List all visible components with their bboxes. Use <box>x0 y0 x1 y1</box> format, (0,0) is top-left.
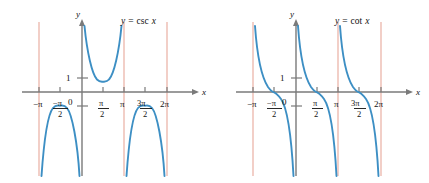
x-tick-label-2pi-csc: 2π <box>160 99 170 109</box>
x-tick-label-3pi-half-csc: 3π 2 <box>137 98 152 119</box>
x-tick-label-neg-pi-csc: −π <box>33 99 43 109</box>
y-axis-arrow-icon <box>293 19 299 26</box>
x-tick-label-neg-pi-half-cot: −π 2 <box>267 98 282 119</box>
csc-branch-0-to-pi <box>85 26 122 82</box>
fraction-denominator: 2 <box>58 109 62 119</box>
chart-title-cot: y=cotx <box>334 16 370 26</box>
chart-panel-csc: y=cscx x y 0 1 −π −π 2 π 2 π 3π <box>0 0 214 183</box>
x-tick-label-pi-half-cot: π 2 <box>312 98 323 119</box>
x-tick-label-pi-cot: π <box>334 99 339 109</box>
x-axis-label-csc: x <box>201 87 206 97</box>
y-axis-label-cot: y <box>289 9 294 19</box>
x-axis-arrow-icon <box>192 89 199 95</box>
origin-label-csc: 0 <box>68 97 73 107</box>
fraction-numerator: 3π <box>351 98 360 108</box>
fraction-numerator: −π <box>267 98 277 108</box>
origin-label-cot: 0 <box>282 97 287 107</box>
y-axis-label-csc: y <box>75 9 80 19</box>
fraction-denominator: 2 <box>143 109 147 119</box>
x-tick-label-2pi-cot: 2π <box>374 99 384 109</box>
chart-panel-cot: y=cotx x y 0 1 −π −π 2 π 2 π 3π 2 <box>214 0 428 183</box>
fraction-denominator: 2 <box>272 109 276 119</box>
x-tick-group-csc <box>39 87 167 92</box>
csc-plot: y=cscx x y 0 1 −π −π 2 π 2 π 3π <box>0 0 214 183</box>
trig-graph-figure: y=cscx x y 0 1 −π −π 2 π 2 π 3π <box>0 0 429 183</box>
x-tick-label-neg-pi-half-csc: −π 2 <box>53 98 68 119</box>
fraction-numerator: π <box>313 98 318 108</box>
x-tick-label-pi-half-csc: π 2 <box>98 98 109 119</box>
y-tick-label-one-cot: 1 <box>280 73 285 83</box>
x-tick-label-neg-pi-cot: −π <box>247 99 257 109</box>
fraction-numerator: −π <box>53 98 63 108</box>
y-tick-label-one-csc: 1 <box>66 73 71 83</box>
fraction-denominator: 2 <box>314 109 318 119</box>
fraction-denominator: 2 <box>357 109 361 119</box>
x-tick-label-3pi-half-cot: 3π 2 <box>351 98 366 119</box>
y-axis-arrow-icon <box>79 19 85 26</box>
fraction-numerator: π <box>99 98 104 108</box>
chart-title-csc: y=cscx <box>120 16 157 26</box>
x-axis-label-cot: x <box>415 87 420 97</box>
fraction-numerator: 3π <box>137 98 146 108</box>
x-axis-arrow-icon <box>406 89 413 95</box>
cot-plot: y=cotx x y 0 1 −π −π 2 π 2 π 3π 2 <box>214 0 428 183</box>
fraction-denominator: 2 <box>100 109 104 119</box>
x-tick-label-pi-csc: π <box>120 99 125 109</box>
